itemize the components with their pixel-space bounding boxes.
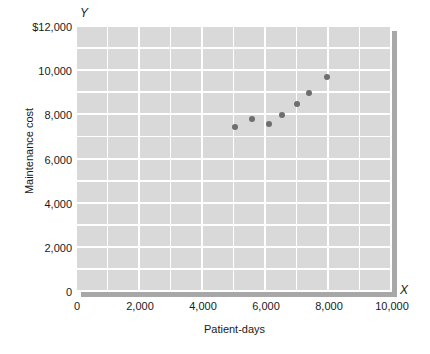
x-tick-label: 2,000 <box>126 300 154 312</box>
data-point <box>324 74 330 80</box>
x-tick-label: 10,000 <box>375 300 409 312</box>
data-point <box>266 121 272 127</box>
vertical-gridlines <box>77 27 392 292</box>
horizontal-gridlines <box>77 27 392 292</box>
y-tick-label: $12,000 <box>32 21 72 33</box>
y-tick-label: 0 <box>66 286 72 298</box>
x-axis-title: Patient-days <box>77 323 392 335</box>
data-point <box>232 124 238 130</box>
plot-area <box>77 27 392 292</box>
y-tick-label: 8,000 <box>44 109 72 121</box>
data-point <box>279 112 285 118</box>
data-point <box>294 101 300 107</box>
x-axis-letter: X <box>400 283 408 297</box>
y-axis-letter: Y <box>80 6 88 20</box>
y-axis-title: Maintenance cost <box>23 81 35 221</box>
y-tick-label: 10,000 <box>38 65 72 77</box>
y-tick-label: 2,000 <box>44 242 72 254</box>
y-tick-label: 6,000 <box>44 154 72 166</box>
data-point <box>306 90 312 96</box>
y-tick-label: 4,000 <box>44 198 72 210</box>
y-axis-tick-labels: 02,0004,0006,0008,00010,000$12,000 <box>0 0 72 354</box>
plot-right-shadow <box>392 31 397 296</box>
plot-bottom-shadow <box>81 292 397 297</box>
x-tick-label: 8,000 <box>315 300 343 312</box>
data-point <box>249 116 255 122</box>
x-tick-label: 6,000 <box>252 300 280 312</box>
x-tick-label: 0 <box>74 300 80 312</box>
scatter-chart: 02,0004,0006,0008,00010,000$12,000 02,00… <box>0 0 430 354</box>
x-tick-label: 4,000 <box>189 300 217 312</box>
